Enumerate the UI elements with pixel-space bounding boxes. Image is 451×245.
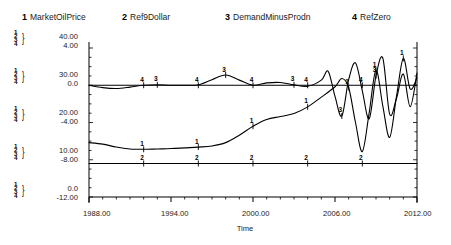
series-marker-2: 2	[359, 154, 363, 161]
x-tick-1994: 1994.00	[161, 209, 188, 218]
x-tick-2006: 2006.00	[323, 209, 350, 218]
series-marker-1: 1	[400, 49, 404, 56]
series-marker-3: 3	[154, 75, 158, 82]
series-marker-2: 2	[250, 154, 254, 161]
series-marker-4: 4	[140, 76, 144, 83]
series-marker-1: 1	[250, 117, 254, 124]
series-marker-4: 4	[250, 76, 254, 83]
series-marker-1: 1	[140, 140, 144, 147]
data-point-markers: 1111111222223333344444	[140, 49, 404, 167]
series-marker-3: 3	[222, 66, 226, 73]
series-marker-3: 3	[339, 106, 343, 113]
series-marker-4: 4	[195, 76, 199, 83]
x-tick-1988: 1988.00	[83, 209, 110, 218]
x-tick-2000: 2000.00	[242, 209, 269, 218]
series-marker-3: 3	[373, 66, 377, 73]
data-curves	[89, 57, 417, 164]
series-marker-1: 1	[304, 97, 308, 104]
series-marker-2: 2	[140, 154, 144, 161]
series-marker-2: 2	[304, 154, 308, 161]
series-marker-2: 2	[195, 154, 199, 161]
series-marker-1: 1	[345, 78, 349, 85]
chart-root: 1MarketOilPrice 2Ref9Dollar 3DemandMinus…	[0, 0, 451, 245]
series-line-marketoilprice	[89, 58, 417, 151]
series-marker-3: 3	[291, 75, 295, 82]
x-axis-title: Time	[215, 224, 275, 233]
plot-area: 1111111222223333344444	[0, 0, 451, 245]
x-tick-2012: 2012.00	[404, 209, 431, 218]
series-marker-4: 4	[304, 76, 308, 83]
series-marker-1: 1	[195, 138, 199, 145]
series-marker-4: 4	[359, 76, 363, 83]
